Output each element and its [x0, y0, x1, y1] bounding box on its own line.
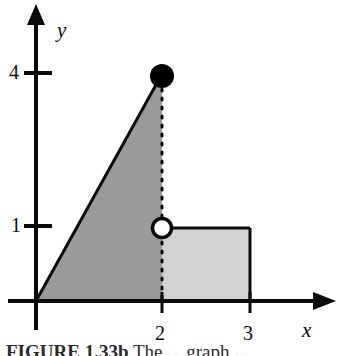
region-rectangle [162, 228, 250, 301]
x-axis-label: x [302, 320, 311, 341]
y-tick-label-4: 4 [9, 62, 19, 82]
figure-caption-label: FIGURE 1.33b [6, 341, 128, 356]
x-tick-label-3: 3 [243, 323, 253, 343]
closed-endpoint-dot [150, 64, 174, 88]
y-axis-arrowhead [27, 4, 45, 25]
figure-caption: FIGURE 1.33b The ... graph ... [6, 341, 346, 356]
y-axis-label: y [57, 20, 66, 41]
figure-caption-text: The ... graph ... [133, 341, 249, 356]
x-tick-label-2: 2 [155, 323, 165, 343]
x-axis-arrowhead [313, 292, 336, 310]
y-tick-label-1: 1 [11, 215, 21, 235]
graph-canvas [0, 0, 346, 356]
open-endpoint-dot [153, 219, 172, 238]
figure-container: y x 4 1 2 3 FIGURE 1.33b The ... graph .… [0, 0, 346, 356]
